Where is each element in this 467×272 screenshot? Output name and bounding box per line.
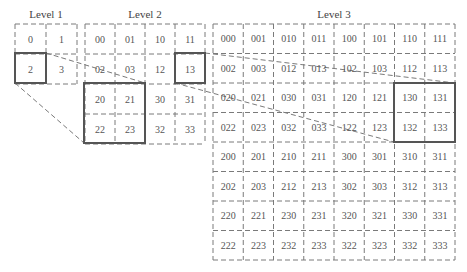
- cell-111: 111: [425, 24, 455, 54]
- cell-232: 232: [274, 231, 304, 261]
- cell-23: 23: [115, 114, 145, 144]
- cell-313: 313: [425, 172, 455, 202]
- cell-222: 222: [213, 231, 243, 261]
- cell-320: 320: [334, 201, 364, 231]
- cell-13: 13: [175, 54, 205, 84]
- cell-1: 1: [46, 24, 77, 54]
- cell-20: 20: [85, 84, 115, 114]
- cell-212: 212: [274, 172, 304, 202]
- cell-302: 302: [334, 172, 364, 202]
- cell-000: 000: [213, 24, 243, 54]
- connector-line: [15, 83, 84, 143]
- cell-131: 131: [425, 83, 455, 113]
- cell-012: 012: [274, 54, 304, 84]
- cell-310: 310: [395, 142, 425, 172]
- cell-220: 220: [213, 201, 243, 231]
- cell-031: 031: [304, 83, 334, 113]
- cell-233: 233: [304, 231, 334, 261]
- cell-203: 203: [243, 172, 273, 202]
- cell-32: 32: [145, 114, 175, 144]
- cell-211: 211: [304, 142, 334, 172]
- cell-010: 010: [274, 24, 304, 54]
- cell-032: 032: [274, 113, 304, 143]
- cell-3: 3: [46, 54, 77, 84]
- cell-10: 10: [145, 24, 175, 54]
- cell-022: 022: [213, 113, 243, 143]
- cell-213: 213: [304, 172, 334, 202]
- cell-311: 311: [425, 142, 455, 172]
- cell-321: 321: [364, 201, 394, 231]
- cell-132: 132: [395, 113, 425, 143]
- cell-00: 00: [85, 24, 115, 54]
- cell-12: 12: [145, 54, 175, 84]
- cell-300: 300: [334, 142, 364, 172]
- cell-331: 331: [425, 201, 455, 231]
- cell-130: 130: [395, 83, 425, 113]
- cell-2: 2: [15, 54, 46, 84]
- cell-330: 330: [395, 201, 425, 231]
- cell-133: 133: [425, 113, 455, 143]
- cell-332: 332: [395, 231, 425, 261]
- cell-123: 123: [364, 113, 394, 143]
- cell-210: 210: [274, 142, 304, 172]
- cell-002: 002: [213, 54, 243, 84]
- cell-202: 202: [213, 172, 243, 202]
- cell-100: 100: [334, 24, 364, 54]
- cell-03: 03: [115, 54, 145, 84]
- cell-301: 301: [364, 142, 394, 172]
- cell-101: 101: [364, 24, 394, 54]
- cell-0: 0: [15, 24, 46, 54]
- cell-201: 201: [243, 142, 273, 172]
- cell-11: 11: [175, 24, 205, 54]
- cell-023: 023: [243, 113, 273, 143]
- cell-121: 121: [364, 83, 394, 113]
- cell-33: 33: [175, 114, 205, 144]
- cell-303: 303: [364, 172, 394, 202]
- cell-221: 221: [243, 201, 273, 231]
- cell-030: 030: [274, 83, 304, 113]
- cell-01: 01: [115, 24, 145, 54]
- cell-30: 30: [145, 84, 175, 114]
- cell-122: 122: [334, 113, 364, 143]
- cell-001: 001: [243, 24, 273, 54]
- cell-103: 103: [364, 54, 394, 84]
- cell-021: 021: [243, 83, 273, 113]
- cell-013: 013: [304, 54, 334, 84]
- cell-020: 020: [213, 83, 243, 113]
- cell-102: 102: [334, 54, 364, 84]
- cell-003: 003: [243, 54, 273, 84]
- cell-322: 322: [334, 231, 364, 261]
- cell-333: 333: [425, 231, 455, 261]
- cell-21: 21: [115, 84, 145, 114]
- cell-011: 011: [304, 24, 334, 54]
- cell-112: 112: [395, 54, 425, 84]
- cell-02: 02: [85, 54, 115, 84]
- cell-22: 22: [85, 114, 115, 144]
- cell-230: 230: [274, 201, 304, 231]
- cell-120: 120: [334, 83, 364, 113]
- cell-312: 312: [395, 172, 425, 202]
- cell-110: 110: [395, 24, 425, 54]
- cell-323: 323: [364, 231, 394, 261]
- cell-223: 223: [243, 231, 273, 261]
- cell-200: 200: [213, 142, 243, 172]
- cell-033: 033: [304, 113, 334, 143]
- cell-231: 231: [304, 201, 334, 231]
- cell-31: 31: [175, 84, 205, 114]
- cell-113: 113: [425, 54, 455, 84]
